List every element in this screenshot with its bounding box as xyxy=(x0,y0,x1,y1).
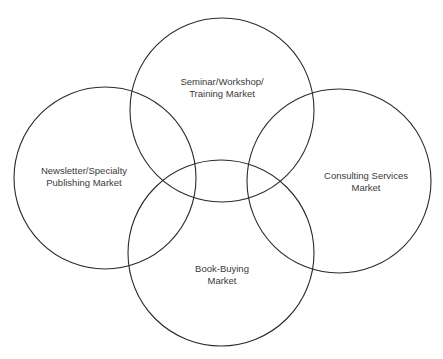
circle-consulting xyxy=(247,89,431,273)
circle-seminar xyxy=(130,18,314,202)
label-newsletter-line1: Newsletter/Specialty xyxy=(41,165,127,176)
label-seminar-line2: Training Market xyxy=(189,88,255,99)
venn-diagram: Seminar/Workshop/ Training Market Newsle… xyxy=(0,0,443,359)
label-seminar-line1: Seminar/Workshop/ xyxy=(180,76,264,87)
label-book-line1: Book-Buying xyxy=(195,263,249,274)
label-book-line2: Market xyxy=(207,275,236,286)
label-newsletter-line2: Publishing Market xyxy=(46,177,122,188)
label-consulting-line2: Market xyxy=(351,182,380,193)
label-consulting-line1: Consulting Services xyxy=(324,170,408,181)
